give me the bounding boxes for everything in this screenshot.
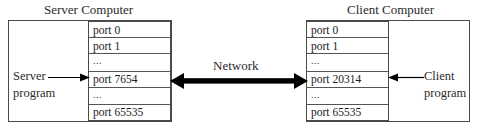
- client-port-row: port 1: [307, 38, 388, 54]
- client-computer-title: Client Computer: [347, 2, 434, 17]
- client-port-table: port 0 port 1 ... port 20314 ... port 65…: [306, 21, 389, 121]
- diagram-canvas: Server Computer Client Computer port 0 p…: [0, 0, 477, 131]
- client-port-row: port 65535: [307, 105, 388, 120]
- client-port-row-ellipsis: ...: [307, 88, 388, 105]
- client-program-label: Client program: [424, 68, 466, 102]
- server-port-row-highlighted: port 7654: [89, 72, 170, 88]
- server-port-table: port 0 port 1 ... port 7654 ... port 655…: [88, 21, 171, 121]
- server-port-row-ellipsis: ...: [89, 88, 170, 105]
- client-program-label-line1: Client: [424, 68, 466, 85]
- server-port-row: port 0: [89, 22, 170, 38]
- server-port-row-ellipsis: ...: [89, 54, 170, 71]
- network-label: Network: [213, 58, 259, 73]
- network-double-arrow-icon: [170, 70, 308, 92]
- client-port-row-highlighted: port 20314: [307, 72, 388, 88]
- server-port-row: port 65535: [89, 105, 170, 120]
- client-port-row: port 0: [307, 22, 388, 38]
- server-computer-title: Server Computer: [44, 2, 133, 17]
- server-program-to-port-arrow-icon: [48, 72, 90, 83]
- server-port-row: port 1: [89, 38, 170, 54]
- client-port-row-ellipsis: ...: [307, 54, 388, 71]
- server-program-label-line2: program: [13, 85, 55, 102]
- client-program-label-line2: program: [424, 85, 466, 102]
- client-program-to-port-arrow-icon: [388, 72, 424, 83]
